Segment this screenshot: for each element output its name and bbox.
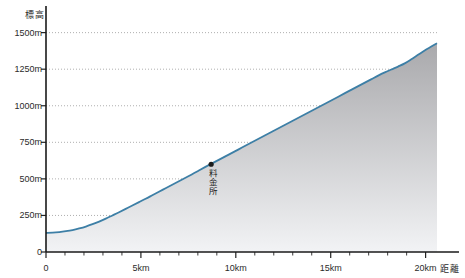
- toll-gate-marker: [209, 162, 214, 167]
- x-tick-label: 20km: [415, 263, 437, 273]
- x-tick-label: 0: [43, 263, 48, 273]
- x-tick-label: 10km: [225, 263, 247, 273]
- elevation-profile-chart: 標高 距離 0250m500m750m1000m1250m1500m 料金所 0…: [0, 0, 465, 278]
- toll-gate-annotation-label: 料金所: [207, 169, 216, 196]
- x-tick-label: 5km: [132, 263, 149, 273]
- plot-area: [0, 0, 465, 278]
- x-tick-label: 15km: [320, 263, 342, 273]
